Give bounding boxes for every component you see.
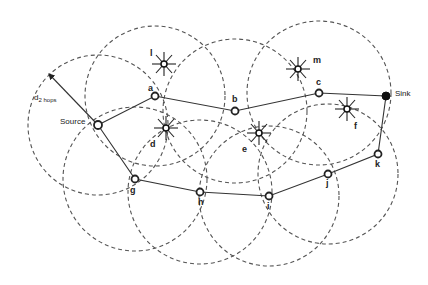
label-sink: Sink (395, 89, 412, 98)
range-circles (28, 21, 398, 266)
node-b (232, 108, 239, 115)
node-c (316, 90, 323, 97)
node-g (132, 176, 139, 183)
label-d: d (150, 139, 156, 149)
node-k (375, 151, 382, 158)
label-h: h (198, 197, 204, 207)
interferer-d (154, 116, 178, 140)
node-a (152, 93, 159, 100)
label-m: m (313, 55, 321, 65)
radius-label: d2 hops (34, 93, 56, 103)
label-a: a (148, 83, 154, 93)
label-f: f (354, 121, 358, 131)
label-e: e (242, 144, 247, 154)
label-c: c (316, 77, 321, 87)
node-h (197, 189, 204, 196)
node-source (94, 121, 102, 129)
interferer-f (335, 97, 359, 121)
node-j (325, 171, 332, 178)
label-j: j (325, 178, 329, 188)
label-g: g (130, 185, 136, 195)
interferer-m (286, 57, 310, 81)
node-sink (382, 92, 390, 100)
network-diagram: d2 hops Source a b c Sink g h i j k l d … (0, 0, 428, 285)
label-k: k (375, 159, 381, 169)
label-source: Source (60, 117, 86, 126)
label-l: l (150, 48, 153, 58)
interferer-l (152, 52, 176, 76)
node-i (266, 193, 273, 200)
label-i: i (267, 201, 270, 211)
label-b: b (232, 94, 238, 104)
